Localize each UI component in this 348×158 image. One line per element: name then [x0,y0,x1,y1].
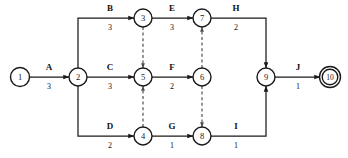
activity-F-duration: 2 [170,82,174,91]
node-5[interactable]: 5 [134,68,152,86]
activity-I-duration: 1 [234,141,238,150]
activity-A-duration: 3 [47,82,51,91]
node-7[interactable]: 7 [193,9,211,27]
node-4[interactable]: 4 [134,127,152,145]
network-diagram: A 3 B 3 C 3 D 2 E 3 F 2 G 1 H 2 I 1 J 1 … [0,0,348,158]
node-9-label: 9 [264,72,268,82]
activity-D-duration: 2 [108,141,112,150]
edge-H-7-to-9 [211,18,266,68]
node-9[interactable]: 9 [257,68,275,86]
node-8-label: 8 [200,131,204,141]
network-diagram-canvas: A 3 B 3 C 3 D 2 E 3 F 2 G 1 H 2 I 1 J 1 … [0,0,348,158]
node-8[interactable]: 8 [193,127,211,145]
node-10[interactable]: 10 [320,67,341,88]
activity-J-duration: 1 [296,82,300,91]
node-3[interactable]: 3 [134,9,152,27]
node-7-label: 7 [200,13,204,23]
activity-C-name: C [107,62,114,72]
node-6-label: 6 [200,72,204,82]
node-1[interactable]: 1 [11,68,30,87]
activity-G-name: G [168,121,175,131]
node-1-label: 1 [18,72,22,82]
activity-B-duration: 3 [108,23,112,32]
activity-D-name: D [107,121,114,131]
activity-H-name: H [232,3,239,13]
activity-B-name: B [107,3,113,13]
edge-B-2-to-3 [78,18,134,68]
node-10-label: 10 [326,73,334,82]
node-2[interactable]: 2 [69,68,87,86]
activity-E-duration: 3 [170,23,174,32]
activity-H-duration: 2 [234,23,238,32]
node-3-label: 3 [141,13,145,23]
activity-C-duration: 3 [108,82,112,91]
activity-E-name: E [169,3,175,13]
activity-I-name: I [234,121,238,131]
activity-G-duration: 1 [170,141,174,150]
node-2-label: 2 [76,72,80,82]
activity-J-name: J [296,62,301,72]
node-6[interactable]: 6 [193,68,211,86]
activity-F-name: F [169,62,175,72]
node-5-label: 5 [141,72,145,82]
edge-I-8-to-9 [211,86,266,136]
activity-A-name: A [46,62,53,72]
